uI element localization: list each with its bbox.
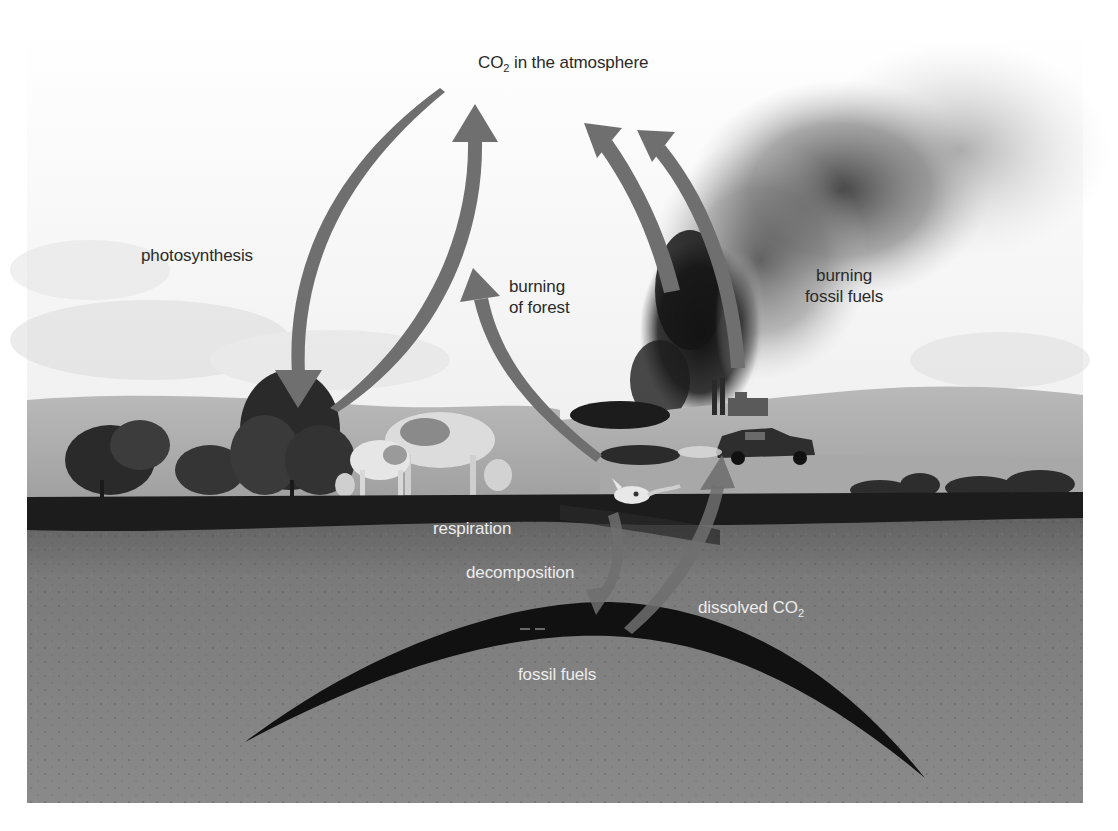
label-burning-of-forest-line2: of forest <box>509 297 570 318</box>
label-decomposition: decomposition <box>466 562 574 583</box>
label-co2-atmosphere: CO2 in the atmosphere <box>478 52 648 73</box>
label-dissolved-co2: dissolved CO2 <box>698 597 804 618</box>
label-burning-of-forest: burning of forest <box>509 276 570 318</box>
soil-texture <box>27 500 1083 803</box>
label-burning-fossil-fuels-line1: burning <box>805 265 883 286</box>
label-fossil-fuels: fossil fuels <box>518 664 596 685</box>
label-burning-of-forest-line1: burning <box>509 276 570 297</box>
label-respiration: respiration <box>433 518 511 539</box>
label-burning-fossil-fuels-line2: fossil fuels <box>805 286 883 307</box>
car-exhaust <box>678 446 722 458</box>
label-photosynthesis: photosynthesis <box>141 245 253 266</box>
burning-forest-ground <box>570 401 670 429</box>
label-burning-fossil-fuels: burning fossil fuels <box>805 265 883 307</box>
carbon-cycle-illustration <box>0 0 1118 831</box>
carbon-cycle-figure: CO2 in the atmosphere photosynthesis bur… <box>0 0 1118 831</box>
